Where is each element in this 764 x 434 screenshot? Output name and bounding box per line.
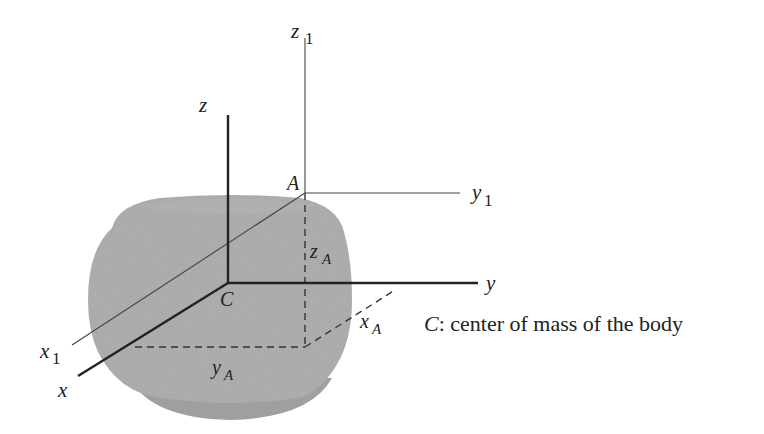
svg-text:y: y [470, 180, 482, 204]
svg-text:z: z [290, 19, 299, 43]
svg-text:x: x [359, 310, 369, 332]
svg-text:x: x [39, 339, 50, 363]
svg-text:1: 1 [52, 349, 61, 368]
svg-text:A: A [371, 321, 382, 337]
diagram-figure: z z 1 y 1 y x 1 x A C z A y A x A [0, 0, 764, 434]
svg-text:z: z [309, 240, 318, 262]
svg-text:A: A [321, 251, 332, 267]
caption: C: center of mass of the body [424, 311, 683, 336]
x1-axis-label: x 1 [39, 339, 61, 368]
xA-dimension-label: x A [359, 310, 382, 337]
z1-axis-label: z 1 [290, 19, 314, 48]
x-axis-label: x [57, 378, 68, 402]
point-C-label: C [220, 288, 234, 310]
y-axis-label: y [484, 271, 496, 295]
svg-text:1: 1 [484, 191, 493, 210]
caption-symbol: C [424, 311, 439, 336]
y1-axis-label: y 1 [470, 180, 493, 210]
svg-text:A: A [223, 367, 234, 383]
svg-text:y: y [210, 356, 221, 379]
z-axis-label: z [198, 93, 207, 117]
point-A-label: A [285, 172, 300, 194]
caption-text: : center of mass of the body [439, 311, 683, 336]
svg-text:1: 1 [305, 29, 314, 48]
